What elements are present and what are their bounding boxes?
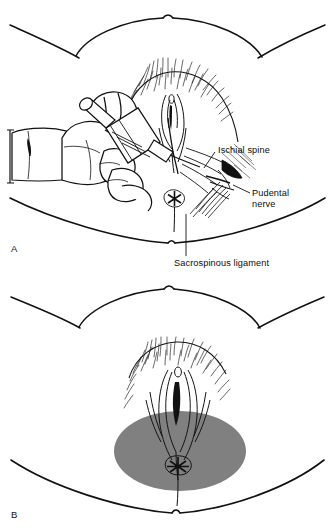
panel-b-letter: B (11, 509, 17, 520)
label-pudendal-nerve: Pudentalnerve (252, 188, 289, 209)
vulva-detail-a (159, 94, 186, 174)
pubic-hair-region-a (128, 58, 233, 121)
panel-b-group (11, 286, 324, 513)
vaginal-opening-a (169, 105, 172, 130)
panel-b-body-outline (11, 286, 324, 328)
anus-a (164, 190, 184, 207)
anatomical-illustration (0, 0, 332, 528)
leader-pudendal-nerve (233, 185, 250, 193)
label-pudendal-nerve-line1: Pudental (252, 188, 289, 198)
perineal-raphe-a (174, 207, 175, 232)
figure-root: Ischial spine Pudentalnerve Sacrospinous… (0, 0, 332, 528)
labial-fold-outline-b (129, 342, 226, 378)
leader-ischial-spine (204, 152, 215, 168)
panel-a-letter: A (11, 243, 17, 254)
label-ischial-spine: Ischial spine (218, 145, 270, 156)
panel-a-body-outline (10, 15, 325, 58)
panel-a-group (7, 15, 325, 256)
label-pudendal-nerve-line2: nerve (252, 199, 275, 209)
label-sacrospinous-ligament: Sacrospinous ligament (174, 258, 269, 269)
